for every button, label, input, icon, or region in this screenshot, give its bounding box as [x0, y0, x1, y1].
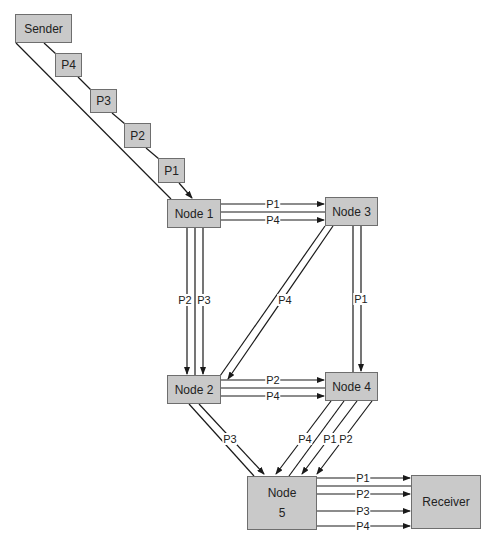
receiver-node: Receiver: [411, 475, 481, 529]
node-2: Node 2: [167, 375, 221, 404]
link-sender-to-node1: [16, 43, 171, 199]
links-layer: [0, 0, 490, 542]
node-3-label: Node 3: [332, 202, 371, 222]
packet-route-label: P4: [265, 390, 280, 402]
packet-route-label: P4: [297, 433, 312, 445]
node-4-label: Node 4: [332, 377, 371, 397]
packet-p4: P4: [55, 53, 82, 77]
node-5-label: Node: [268, 483, 297, 503]
node-5-number: 5: [279, 503, 286, 523]
link-p1-to-node1: [179, 183, 192, 198]
packet-route-label: P2: [177, 294, 192, 306]
packet-p3-label: P3: [96, 91, 111, 111]
packet-route-label: P4: [265, 214, 280, 226]
node-5: Node 5: [247, 476, 317, 530]
sender-label: Sender: [24, 19, 63, 39]
packet-route-label: P1: [265, 198, 280, 210]
packet-p1-label: P1: [164, 161, 179, 181]
receiver-label: Receiver: [422, 492, 469, 512]
node-1-label: Node 1: [175, 204, 214, 224]
node-1: Node 1: [167, 199, 221, 228]
node-3: Node 3: [325, 197, 378, 226]
links-group: [16, 43, 411, 526]
packet-p3: P3: [90, 89, 117, 113]
packet-p2: P2: [124, 123, 151, 148]
packet-route-label: P4: [277, 294, 292, 306]
packet-route-label: P4: [355, 520, 370, 532]
packet-route-label: P3: [222, 433, 237, 445]
packet-route-label: P3: [355, 505, 370, 517]
packet-p1: P1: [158, 158, 185, 183]
node-2-label: Node 2: [175, 380, 214, 400]
packet-route-label: P2: [265, 374, 280, 386]
link-node3-to-node2: [220, 226, 325, 376]
packet-p2-label: P2: [130, 126, 145, 146]
packet-route-label: P1: [322, 433, 337, 445]
packet-route-label: P1: [355, 472, 370, 484]
node-4: Node 4: [325, 372, 378, 401]
packet-switching-diagram: Sender Node 1 Node 3 Node 2 Node 4 Node …: [0, 0, 490, 542]
packet-route-label: P1: [353, 293, 368, 305]
packet-route-label: P2: [338, 433, 353, 445]
packet-route-label: P3: [196, 294, 211, 306]
packet-route-label: P2: [355, 488, 370, 500]
packet-p4-label: P4: [61, 55, 76, 75]
sender-node: Sender: [15, 14, 72, 43]
